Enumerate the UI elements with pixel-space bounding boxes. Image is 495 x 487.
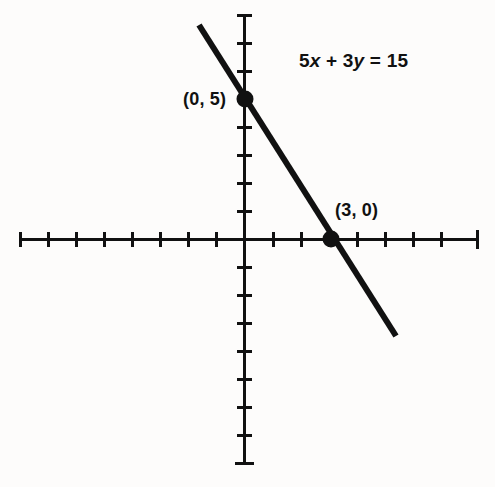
point-label-y-intercept: (0, 5) xyxy=(183,89,226,110)
equation-var-y: y xyxy=(354,50,365,71)
equation-coef-y: 3 xyxy=(343,50,354,71)
coordinate-plane-figure: 5x + 3y = 15 (0, 5) (3, 0) xyxy=(0,0,495,487)
equation-var-x: x xyxy=(310,50,321,71)
point-label-x-intercept: (3, 0) xyxy=(335,200,378,221)
equation-coef-x: 5 xyxy=(299,50,310,71)
equation-constant: 15 xyxy=(387,50,409,71)
point-marker-y-intercept xyxy=(237,91,254,108)
equation-annotation: 5x + 3y = 15 xyxy=(299,50,408,72)
point-marker-x-intercept xyxy=(323,231,340,248)
equation-plus: + xyxy=(321,50,343,71)
graph-canvas xyxy=(0,0,495,487)
equation-equals: = xyxy=(364,50,386,71)
